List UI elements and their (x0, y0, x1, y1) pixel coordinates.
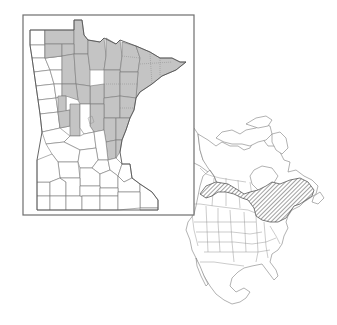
county (38, 98, 58, 114)
county-present (58, 110, 70, 128)
county (30, 30, 45, 45)
county (66, 196, 82, 210)
county (36, 84, 56, 100)
county-present (45, 44, 62, 58)
county-present (120, 72, 138, 98)
county (82, 196, 100, 210)
county-present (70, 104, 80, 136)
county (50, 196, 66, 210)
county-present (45, 30, 74, 44)
distribution-map-figure (0, 0, 337, 325)
county (37, 182, 50, 196)
county-present (90, 84, 104, 104)
county-present (62, 54, 76, 84)
county (100, 188, 118, 196)
county-present (90, 104, 104, 132)
county (100, 196, 118, 210)
minnesota-inset (23, 15, 194, 215)
county-present (74, 54, 90, 86)
county (80, 186, 100, 196)
county-present (104, 96, 120, 118)
ellesmere-island (246, 116, 272, 128)
county (58, 162, 80, 178)
north-america-mainland (186, 134, 318, 304)
county-present (58, 96, 66, 112)
county-present (88, 38, 106, 70)
county (118, 192, 140, 210)
county-present (104, 118, 116, 142)
county (37, 196, 50, 210)
county (30, 45, 45, 58)
